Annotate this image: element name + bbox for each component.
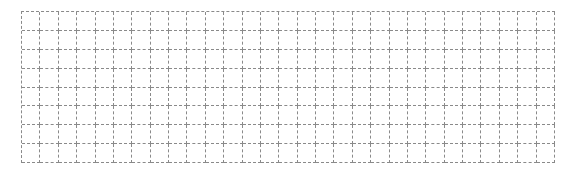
grid-cell — [518, 12, 536, 31]
grid-cell — [169, 12, 187, 31]
grid-cell — [279, 88, 297, 107]
grid-cell — [114, 106, 132, 125]
grid-cell — [77, 12, 95, 31]
grid-cell — [206, 69, 224, 88]
grid-cell — [334, 144, 352, 163]
grid-cell — [481, 31, 499, 50]
grid-cell — [77, 50, 95, 69]
grid-cell — [243, 144, 261, 163]
grid-cell — [169, 88, 187, 107]
grid-cell — [500, 50, 518, 69]
grid-cell — [151, 69, 169, 88]
grid-cell — [206, 144, 224, 163]
grid-cell — [445, 12, 463, 31]
grid-cell — [114, 88, 132, 107]
grid-cell — [537, 125, 555, 144]
grid-cell — [132, 144, 150, 163]
grid-cell — [22, 125, 40, 144]
grid-cell — [243, 88, 261, 107]
grid-cell — [40, 50, 58, 69]
grid-cell — [481, 88, 499, 107]
grid-cell — [22, 50, 40, 69]
grid-cell — [463, 69, 481, 88]
grid-cell — [243, 106, 261, 125]
grid-cell — [481, 125, 499, 144]
grid-cell — [371, 144, 389, 163]
grid-cell — [261, 125, 279, 144]
grid-cell — [371, 125, 389, 144]
grid-cell — [187, 88, 205, 107]
grid-cell — [114, 144, 132, 163]
grid-cell — [390, 88, 408, 107]
grid-cell — [59, 144, 77, 163]
grid-cell — [463, 144, 481, 163]
grid-cell — [463, 50, 481, 69]
grid-cell — [187, 50, 205, 69]
grid-cell — [371, 88, 389, 107]
grid-cell — [334, 31, 352, 50]
grid-cell — [224, 144, 242, 163]
grid-cell — [353, 12, 371, 31]
grid-cell — [298, 106, 316, 125]
grid-cell — [261, 12, 279, 31]
grid-cell — [151, 88, 169, 107]
grid-cell — [445, 125, 463, 144]
grid-cell — [408, 12, 426, 31]
grid-cell — [187, 69, 205, 88]
grid-cell — [463, 125, 481, 144]
grid-cell — [518, 31, 536, 50]
grid-cell — [481, 106, 499, 125]
grid-cell — [40, 106, 58, 125]
grid-cell — [500, 88, 518, 107]
grid-cell — [224, 125, 242, 144]
grid-cell — [22, 12, 40, 31]
grid-cell — [224, 12, 242, 31]
grid-cell — [59, 69, 77, 88]
grid-cell — [132, 88, 150, 107]
grid-cell — [445, 144, 463, 163]
grid-cell — [518, 106, 536, 125]
grid-cell — [298, 12, 316, 31]
grid-cell — [463, 31, 481, 50]
grid-cell — [298, 50, 316, 69]
grid-cell — [481, 12, 499, 31]
grid-cell — [445, 69, 463, 88]
grid-cell — [334, 125, 352, 144]
grid-cell — [537, 12, 555, 31]
grid-cell — [500, 31, 518, 50]
grid-cell — [371, 106, 389, 125]
grid-cell — [114, 50, 132, 69]
grid-cell — [224, 106, 242, 125]
grid-cell — [537, 31, 555, 50]
grid-cell — [537, 144, 555, 163]
grid-cell — [371, 69, 389, 88]
grid-cell — [390, 50, 408, 69]
grid-cell — [77, 31, 95, 50]
grid-cell — [426, 50, 444, 69]
grid-cell — [169, 144, 187, 163]
grid-cell — [518, 69, 536, 88]
grid-cell — [298, 69, 316, 88]
grid-cell — [224, 50, 242, 69]
grid-cell — [22, 144, 40, 163]
grid-cell — [537, 88, 555, 107]
grid-cell — [96, 125, 114, 144]
grid-cell — [518, 88, 536, 107]
grid-cell — [132, 12, 150, 31]
grid-cell — [518, 125, 536, 144]
grid-cell — [426, 31, 444, 50]
grid-cell — [96, 144, 114, 163]
grid-cell — [187, 125, 205, 144]
grid-cell — [96, 106, 114, 125]
grid-cell — [518, 50, 536, 69]
grid-cell — [206, 106, 224, 125]
grid-cell — [316, 144, 334, 163]
grid-cell — [390, 69, 408, 88]
grid-cell — [243, 125, 261, 144]
grid-cell — [537, 50, 555, 69]
grid-cell — [316, 12, 334, 31]
grid-cell — [40, 12, 58, 31]
grid-cell — [22, 31, 40, 50]
grid-cell — [500, 69, 518, 88]
grid-cell — [261, 69, 279, 88]
